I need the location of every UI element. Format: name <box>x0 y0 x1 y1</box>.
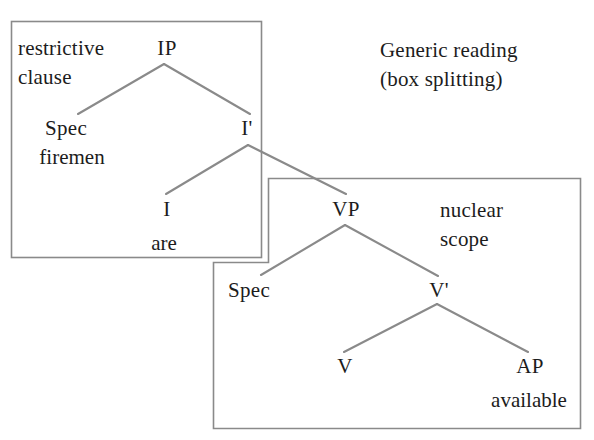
tree-node-spec-vp: Spec <box>228 280 270 301</box>
tree-node-v: V <box>337 356 352 377</box>
terminal-are: are <box>151 233 177 254</box>
nuclear-scope-label-line2: scope <box>440 225 503 254</box>
terminal-firemen: firemen <box>39 147 104 168</box>
syntax-tree-figure: restrictive clause nuclear scope Generic… <box>0 0 594 440</box>
restrictive-clause-label: restrictive clause <box>18 34 104 92</box>
edge-ibar-vp <box>248 145 346 194</box>
nuclear-scope-label-line1: nuclear <box>440 196 503 225</box>
tree-node-i-bar: I' <box>241 118 252 139</box>
edge-vp-vbar <box>345 225 438 276</box>
edge-ibar-i <box>166 145 248 194</box>
tree-node-ap: AP <box>516 356 543 377</box>
tree-node-ip: IP <box>157 38 176 59</box>
edge-ip-ibar <box>164 64 250 114</box>
tree-node-i: I <box>163 199 170 220</box>
generic-reading-line1: Generic reading <box>380 36 518 65</box>
restrictive-clause-label-line1: restrictive <box>18 34 104 63</box>
terminal-available: available <box>491 390 567 411</box>
tree-node-v-bar: V' <box>429 280 449 301</box>
restrictive-clause-label-line2: clause <box>18 63 104 92</box>
generic-reading-line2: (box splitting) <box>380 65 518 94</box>
edge-vbar-v <box>344 304 437 352</box>
edge-vp-spec <box>261 225 345 275</box>
tree-node-vp: VP <box>332 199 359 220</box>
generic-reading-annotation: Generic reading (box splitting) <box>380 36 518 94</box>
tree-node-spec-ip: Spec <box>45 118 87 139</box>
nuclear-scope-label: nuclear scope <box>440 196 503 254</box>
edge-vbar-ap <box>437 304 528 352</box>
